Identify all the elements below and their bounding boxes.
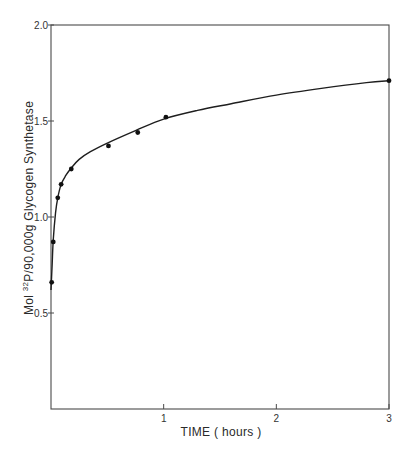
chart-figure: 0.51.01.52.0 123 TIME ( hours ) Mol 32P/… [0, 0, 414, 454]
fit-curve-line [51, 81, 389, 290]
y-tick-label: 0.5 [34, 308, 48, 319]
data-point [387, 78, 392, 83]
x-tick-label: 3 [386, 413, 392, 424]
data-point [55, 195, 60, 200]
y-axis-title-main: P/90,000g Glycogen Synthetase [22, 101, 36, 282]
data-point [106, 144, 111, 149]
data-point [49, 280, 54, 285]
data-points [49, 78, 391, 284]
data-point [69, 167, 74, 172]
chart-canvas: 0.51.01.52.0 123 TIME ( hours ) Mol 32P/… [0, 0, 414, 454]
x-axis-title: TIME ( hours ) [181, 425, 262, 439]
y-tick-label: 1.5 [34, 116, 48, 127]
x-axis-ticks: 123 [161, 404, 392, 424]
y-axis-title: Mol 32P/90,000g Glycogen Synthetase [21, 101, 36, 315]
plot-frame [51, 25, 389, 409]
data-point [164, 115, 169, 120]
data-point [135, 130, 140, 135]
fit-curve [51, 81, 389, 290]
data-point [59, 182, 64, 187]
plot-border [51, 25, 389, 409]
x-tick-label: 2 [274, 413, 280, 424]
data-point [51, 240, 56, 245]
y-tick-label: 2.0 [34, 20, 48, 31]
y-tick-label: 1.0 [34, 212, 48, 223]
x-tick-label: 1 [161, 413, 167, 424]
y-axis-title-prefix: Mol [22, 291, 36, 315]
y-axis-title-superscript: 32 [21, 281, 30, 291]
